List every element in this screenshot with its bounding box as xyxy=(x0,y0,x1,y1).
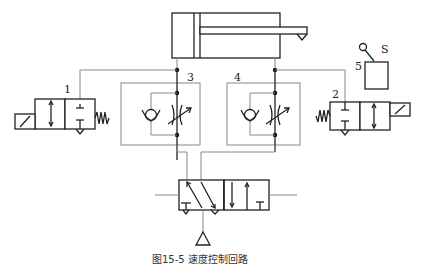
label-5: 5 xyxy=(355,60,362,73)
label-s: S xyxy=(381,43,389,56)
line-3-to-main xyxy=(177,145,187,180)
label-3: 3 xyxy=(187,71,194,84)
pressure-source-icon xyxy=(196,232,210,245)
label-2: 2 xyxy=(332,88,339,101)
line-to-valve-1 xyxy=(80,70,177,99)
line-4-to-main xyxy=(201,145,275,180)
circuit-svg: 1 2 3 4 5 S 图15-5 速度控制回路 xyxy=(0,0,423,264)
solenoid-valve-2 xyxy=(316,102,410,135)
main-directional-valve xyxy=(155,180,297,214)
solenoid-valve-1 xyxy=(15,99,109,134)
circuit-diagram: 1 2 3 4 5 S 图15-5 速度控制回路 xyxy=(0,0,423,264)
label-1: 1 xyxy=(64,83,71,96)
cylinder xyxy=(172,13,307,58)
figure-caption: 图15-5 速度控制回路 xyxy=(152,253,248,264)
label-4: 4 xyxy=(234,71,241,84)
